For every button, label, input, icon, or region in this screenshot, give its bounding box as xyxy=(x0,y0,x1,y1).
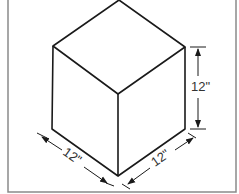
height-label: 12" xyxy=(191,79,210,94)
right-width-label: 12" xyxy=(148,146,173,169)
cube-top-face xyxy=(53,0,185,94)
diagram-canvas: 12" 12" 12" xyxy=(0,0,239,194)
left-depth-label: 12" xyxy=(60,144,85,167)
frame-border xyxy=(8,0,236,192)
cube-diagram: 12" 12" 12" xyxy=(0,0,239,194)
